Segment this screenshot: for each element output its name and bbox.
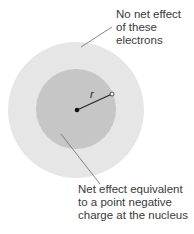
outer-label-line: No net effect [116, 8, 181, 21]
outer-label-line: electrons [116, 34, 181, 47]
electron-shielding-diagram: r No net effect of these electrons Net e… [0, 0, 194, 234]
outer-shell-label: No net effect of these electrons [116, 8, 181, 47]
inner-label-line: to a point negative [78, 196, 188, 209]
outer-label-line: of these [116, 21, 181, 34]
test-point [110, 92, 114, 96]
nucleus-point [75, 108, 80, 113]
outer-leader-line [81, 27, 112, 47]
inner-label-line: charge at the nucleus [78, 209, 188, 222]
radius-label: r [90, 88, 94, 100]
inner-label-line: Net effect equivalent [78, 183, 188, 196]
inner-sphere-label: Net effect equivalent to a point negativ… [78, 183, 188, 222]
